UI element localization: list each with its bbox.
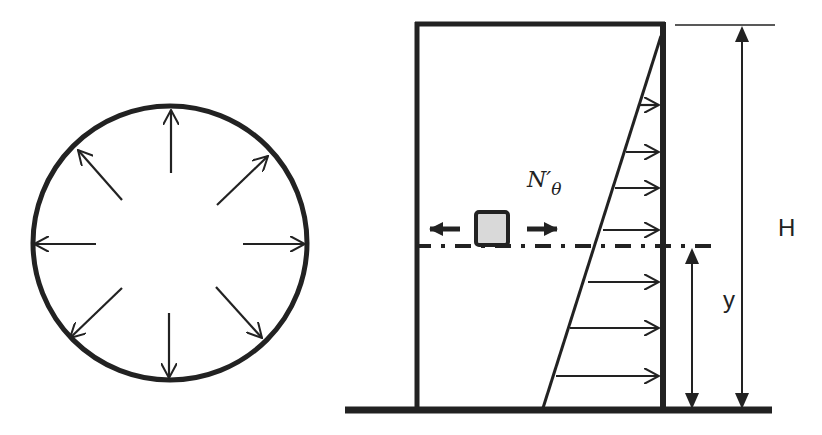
elevation-view: N′θ H y: [345, 22, 795, 410]
hydrostatic-pressure-arrows: [556, 105, 659, 376]
height-label: H: [778, 214, 795, 241]
hoop-force-label: N′θ: [526, 167, 562, 199]
radial-pressure-arrows: [34, 110, 305, 378]
pressure-distribution-line: [543, 36, 661, 408]
depth-label: y: [723, 286, 735, 313]
plan-view: [33, 106, 307, 380]
hoop-element: [476, 212, 508, 245]
diagram-canvas: N′θ H y: [0, 0, 822, 435]
